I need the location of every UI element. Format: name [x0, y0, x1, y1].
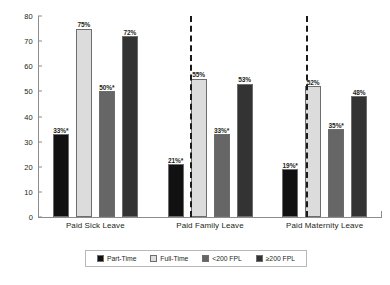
bar-slot: 72%	[122, 16, 138, 217]
bar-group-bars: 19%*52%35%*48%	[267, 16, 382, 217]
legend-swatch-icon	[150, 255, 157, 262]
x-axis-category-label: Paid Family Leave	[153, 221, 268, 230]
group-separator-1	[190, 16, 192, 217]
legend-item-label: Full-Time	[160, 255, 188, 262]
legend-item[interactable]: Full-Time	[150, 255, 188, 262]
bar-value-label: 52%	[307, 79, 320, 86]
y-axis-tick-label: 20	[24, 162, 38, 171]
legend-item-label: ≥200 FPL	[266, 255, 295, 262]
bar-group-bars: 33%*75%50%*72%	[38, 16, 153, 217]
bar[interactable]: 53%	[237, 84, 253, 217]
bar-slot: 55%	[191, 16, 207, 217]
bar-group: 21%*55%33%*53%	[153, 16, 268, 217]
bar-value-label: 75%	[77, 21, 90, 28]
bar-slot: 50%*	[99, 16, 115, 217]
bar-slot: 53%	[237, 16, 253, 217]
bar[interactable]: 35%*	[328, 129, 344, 217]
y-axis-tick-label: 60	[24, 62, 38, 71]
bar-slot: 48%	[351, 16, 367, 217]
plot-area: 80706050403020100 33%*75%50%*72%21%*55%3…	[38, 16, 382, 217]
legend-swatch-icon	[202, 255, 209, 262]
bar-slot: 21%*	[168, 16, 184, 217]
y-axis-tick-label: 30	[24, 137, 38, 146]
bar-value-label: 33%*	[53, 127, 68, 134]
legend-item[interactable]: Part-Time	[97, 255, 137, 262]
y-axis-tick-label: 80	[24, 12, 38, 21]
legend-item[interactable]: <200 FPL	[202, 255, 242, 262]
bar-slot: 19%*	[282, 16, 298, 217]
bar-slot: 35%*	[328, 16, 344, 217]
bar-value-label: 53%	[238, 76, 251, 83]
bar-group-bars: 21%*55%33%*53%	[153, 16, 268, 217]
bar-slot: 75%	[76, 16, 92, 217]
bar-value-label: 72%	[123, 29, 136, 36]
grouped-bar-chart: 80706050403020100 33%*75%50%*72%21%*55%3…	[0, 0, 390, 285]
bar[interactable]: 21%*	[168, 164, 184, 217]
bar-value-label: 35%*	[329, 122, 344, 129]
bar-value-label: 50%*	[99, 84, 114, 91]
y-axis-tick-label: 70	[24, 37, 38, 46]
bar[interactable]: 50%*	[99, 91, 115, 217]
x-axis-category-labels: Paid Sick LeavePaid Family LeavePaid Mat…	[38, 221, 382, 230]
legend-item-label: Part-Time	[107, 255, 137, 262]
bar[interactable]: 48%	[351, 96, 367, 217]
x-axis-category-label: Paid Sick Leave	[38, 221, 153, 230]
bar[interactable]: 55%	[191, 79, 207, 217]
bar[interactable]: 33%*	[214, 134, 230, 217]
bar-value-label: 33%*	[214, 127, 229, 134]
bar-slot: 33%*	[214, 16, 230, 217]
legend-swatch-icon	[256, 255, 263, 262]
y-axis-tick-label: 40	[24, 112, 38, 121]
group-separator-2	[306, 16, 308, 217]
x-axis-line	[38, 217, 382, 218]
y-axis-tick-label: 10	[24, 187, 38, 196]
bar-value-label: 19%*	[283, 162, 298, 169]
bar[interactable]: 33%*	[53, 134, 69, 217]
y-axis-tick-label: 0	[29, 213, 38, 222]
bar-group: 19%*52%35%*48%	[267, 16, 382, 217]
bar[interactable]: 72%	[122, 36, 138, 217]
bar-slot: 33%*	[53, 16, 69, 217]
bar-groups: 33%*75%50%*72%21%*55%33%*53%19%*52%35%*4…	[38, 16, 382, 217]
legend-item-label: <200 FPL	[212, 255, 242, 262]
bar-value-label: 21%*	[168, 157, 183, 164]
chart-legend: Part-TimeFull-Time<200 FPL≥200 FPL	[85, 250, 307, 267]
bar[interactable]: 75%	[76, 29, 92, 217]
legend-item[interactable]: ≥200 FPL	[256, 255, 295, 262]
legend-swatch-icon	[97, 255, 104, 262]
x-axis-category-label: Paid Maternity Leave	[267, 221, 382, 230]
bar-value-label: 48%	[353, 89, 366, 96]
bar-value-label: 55%	[192, 71, 205, 78]
y-axis-tick-label: 50	[24, 87, 38, 96]
bar[interactable]: 19%*	[282, 169, 298, 217]
bar-group: 33%*75%50%*72%	[38, 16, 153, 217]
